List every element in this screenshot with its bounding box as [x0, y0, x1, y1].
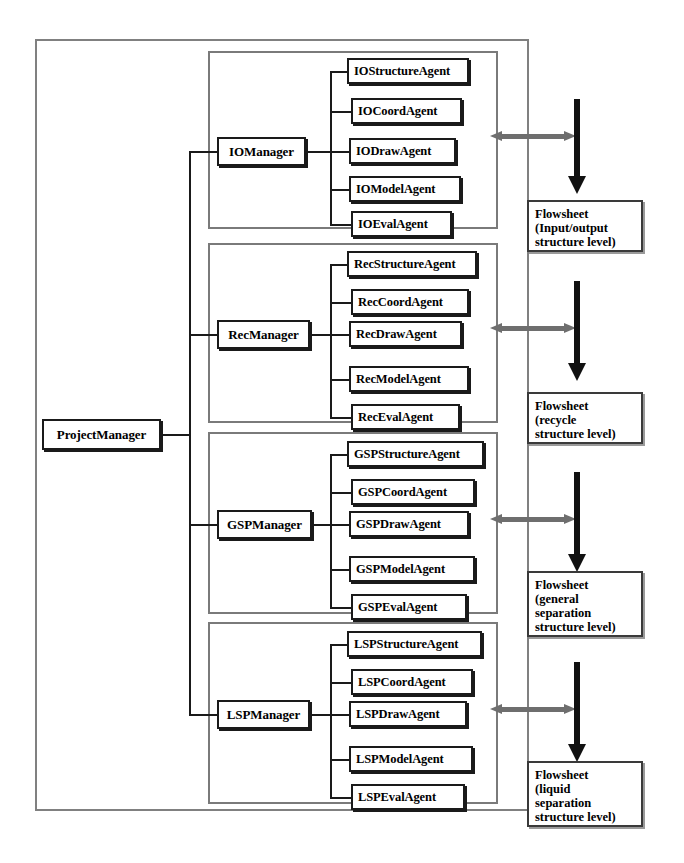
lsp-agent-branch-1: [330, 682, 352, 684]
lsp-agent-branch-2: [330, 714, 350, 716]
node-gsp-draw-agent[interactable]: GSPDrawAgent: [349, 511, 469, 537]
node-label: RecModelAgent: [356, 373, 441, 386]
node-label: RecManager: [228, 328, 298, 341]
gsp-agent-branch-4: [330, 607, 352, 609]
rec-agent-branch-4: [330, 417, 352, 419]
flowsheet-line: structure level): [535, 427, 637, 441]
flowsheet-lsp[interactable]: Flowsheet (liquid separation structure l…: [527, 761, 643, 827]
node-lsp-eval-agent[interactable]: LSPEvalAgent: [351, 784, 465, 810]
down-arrow-rec: [568, 281, 587, 381]
flowsheet-line: (Input/output: [535, 221, 637, 235]
arrow-shaft: [501, 707, 565, 712]
trunk-vertical-line: [189, 151, 191, 715]
arrow-shaft: [574, 99, 580, 178]
lsp-agent-trunk-line: [330, 644, 332, 797]
flowsheet-line: separation: [535, 796, 637, 810]
node-rec-manager[interactable]: RecManager: [217, 320, 310, 349]
node-lsp-manager[interactable]: LSPManager: [217, 700, 310, 729]
flowsheet-line: structure level): [535, 810, 637, 824]
flowsheet-line: (liquid: [535, 782, 637, 796]
node-io-draw-agent[interactable]: IODrawAgent: [349, 138, 456, 164]
arrow-shaft: [574, 281, 580, 365]
manager-connector-io: [189, 151, 218, 153]
flowsheet-line: (recycle: [535, 413, 637, 427]
lsp-manager-out-line: [309, 714, 332, 716]
node-label: GSPManager: [227, 518, 302, 531]
flowsheet-rec[interactable]: Flowsheet (recycle structure level): [527, 392, 643, 444]
node-label: GSPStructureAgent: [354, 448, 460, 461]
node-label: GSPCoordAgent: [358, 486, 447, 499]
gsp-agent-branch-1: [330, 492, 352, 494]
node-gsp-manager[interactable]: GSPManager: [217, 510, 312, 539]
io-agent-branch-2: [330, 151, 350, 153]
flowsheet-gsp[interactable]: Flowsheet (general separation structure …: [527, 571, 643, 637]
rec-agent-branch-2: [330, 334, 350, 336]
gsp-agent-branch-0: [330, 454, 348, 456]
arrow-head-down: [568, 363, 586, 381]
node-label: IOManager: [229, 145, 294, 158]
lsp-agent-branch-0: [330, 644, 348, 646]
node-label: LSPManager: [227, 708, 300, 721]
node-gsp-coord-agent[interactable]: GSPCoordAgent: [351, 479, 475, 505]
flowsheet-line: Flowsheet: [535, 768, 637, 782]
node-label: LSPModelAgent: [356, 753, 444, 766]
node-gsp-structure-agent[interactable]: GSPStructureAgent: [347, 441, 484, 467]
arrow-head-down: [568, 744, 586, 762]
bidirectional-arrow-io: [490, 131, 576, 142]
node-lsp-structure-agent[interactable]: LSPStructureAgent: [347, 631, 482, 657]
gsp-agent-branch-3: [330, 569, 350, 571]
arrow-head-down: [568, 554, 586, 572]
gsp-manager-out-line: [311, 524, 332, 526]
manager-connector-lsp: [189, 714, 218, 716]
flowsheet-line: (general: [535, 592, 637, 606]
bidirectional-arrow-rec: [490, 323, 576, 334]
node-io-manager[interactable]: IOManager: [217, 137, 306, 166]
node-label: IOModelAgent: [356, 183, 435, 196]
io-agent-branch-1: [330, 111, 352, 113]
node-label: LSPEvalAgent: [358, 791, 436, 804]
node-label: GSPEvalAgent: [358, 601, 437, 614]
flowsheet-line: Flowsheet: [535, 578, 637, 592]
arrow-head-down: [568, 176, 586, 194]
node-label: RecCoordAgent: [358, 296, 443, 309]
node-rec-model-agent[interactable]: RecModelAgent: [349, 366, 469, 392]
flowsheet-line: Flowsheet: [535, 399, 637, 413]
bidirectional-arrow-gsp: [490, 514, 576, 525]
rec-agent-branch-3: [330, 379, 350, 381]
io-agent-branch-4: [330, 224, 352, 226]
flowsheet-line: structure level): [535, 620, 637, 634]
arrow-shaft: [501, 134, 565, 139]
io-agent-branch-0: [330, 71, 348, 73]
node-label: IODrawAgent: [356, 145, 431, 158]
bidirectional-arrow-lsp: [490, 704, 576, 715]
node-gsp-model-agent[interactable]: GSPModelAgent: [349, 556, 475, 582]
arrow-shaft: [501, 326, 565, 331]
rec-agent-branch-1: [330, 302, 352, 304]
node-gsp-eval-agent[interactable]: GSPEvalAgent: [351, 594, 467, 620]
node-io-coord-agent[interactable]: IOCoordAgent: [351, 98, 462, 124]
arrow-shaft: [574, 662, 580, 746]
node-project-manager[interactable]: ProjectManager: [42, 419, 161, 450]
node-label: IOStructureAgent: [354, 65, 450, 78]
rec-manager-out-line: [309, 334, 332, 336]
node-rec-structure-agent[interactable]: RecStructureAgent: [347, 251, 477, 277]
node-lsp-model-agent[interactable]: LSPModelAgent: [349, 746, 473, 772]
node-lsp-coord-agent[interactable]: LSPCoordAgent: [351, 669, 473, 695]
node-io-model-agent[interactable]: IOModelAgent: [349, 176, 461, 202]
node-io-eval-agent[interactable]: IOEvalAgent: [351, 211, 452, 237]
node-label: GSPModelAgent: [356, 563, 445, 576]
flowsheet-line: separation: [535, 606, 637, 620]
manager-connector-rec: [189, 334, 218, 336]
node-rec-coord-agent[interactable]: RecCoordAgent: [351, 289, 469, 315]
node-lsp-draw-agent[interactable]: LSPDrawAgent: [349, 701, 467, 727]
node-io-structure-agent[interactable]: IOStructureAgent: [347, 58, 469, 84]
node-label: IOCoordAgent: [358, 105, 437, 118]
arrow-shaft: [574, 472, 580, 556]
node-rec-draw-agent[interactable]: RecDrawAgent: [349, 321, 462, 347]
node-label: ProjectManager: [57, 428, 146, 441]
node-rec-eval-agent[interactable]: RecEvalAgent: [351, 404, 460, 430]
flowsheet-io[interactable]: Flowsheet (Input/output structure level): [527, 200, 643, 252]
node-label: RecEvalAgent: [358, 411, 433, 424]
arrow-shaft: [501, 517, 565, 522]
projectmanager-connector-line: [160, 434, 190, 436]
